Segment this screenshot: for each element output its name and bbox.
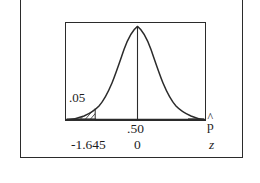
p-hat-symbol: ^ p (207, 119, 214, 133)
z-axis-name: z (209, 138, 214, 152)
p-hat-axis-name: ^ p (207, 119, 214, 133)
normal-density-curve (67, 26, 205, 120)
alpha-area-label: .05 (69, 91, 85, 104)
z-axis-critical-label: -1.645 (71, 138, 106, 152)
circumflex-accent-icon: ^ (207, 111, 214, 123)
p-hat-axis-center-label: .50 (127, 122, 144, 136)
figure-screenshot: .05 .50 0 -1.645 ^ p z (0, 0, 260, 183)
z-axis-center-label: 0 (134, 138, 141, 152)
normal-curve-graphic (0, 0, 260, 183)
